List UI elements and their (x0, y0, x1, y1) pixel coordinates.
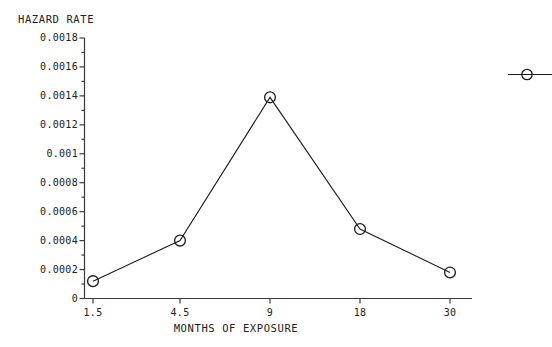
y-axis-ticks (80, 38, 85, 299)
x-axis (85, 299, 473, 304)
line-chart-plot (0, 0, 552, 347)
y-tick-label: 0.0016 (6, 61, 78, 72)
y-tick-label: 0.0018 (6, 32, 78, 43)
x-tick-label: 4.5 (150, 307, 210, 318)
y-tick-label: 0.0012 (6, 119, 78, 130)
y-tick-label: 0.0002 (6, 264, 78, 275)
x-axis-ticks (93, 299, 450, 304)
y-tick-label: 0.0014 (6, 90, 78, 101)
data-point-markers (88, 92, 456, 287)
x-tick-label: 18 (330, 307, 390, 318)
y-tick-label: 0.0008 (6, 177, 78, 188)
x-tick-label: 9 (240, 307, 300, 318)
y-axis (80, 38, 85, 299)
y-tick-label: 0.0004 (6, 235, 78, 246)
legend-sample (508, 69, 552, 79)
x-axis-label: MONTHS OF EXPOSURE (0, 322, 472, 334)
chart-screenshot: HAZARD RATE 00.00020.00040.00060.00080.0… (0, 0, 552, 347)
data-series-line (93, 97, 450, 281)
x-tick-label: 30 (420, 307, 480, 318)
y-tick-label: 0.0006 (6, 206, 78, 217)
y-tick-label: 0.001 (6, 148, 78, 159)
y-tick-label: 0 (6, 293, 78, 304)
x-tick-label: 1.5 (63, 307, 123, 318)
